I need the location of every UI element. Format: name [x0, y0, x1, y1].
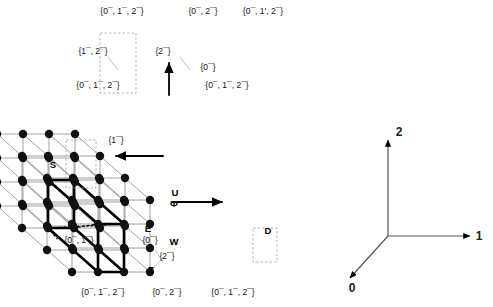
lattice-node [120, 244, 128, 252]
lattice-node [96, 152, 104, 160]
vertex-label-lower-w: {2¯} [159, 251, 174, 261]
lattice-node [45, 130, 53, 138]
lattice-node [43, 222, 51, 230]
marker-phi: Φ [170, 198, 178, 209]
lattice-node [43, 246, 51, 254]
axis-label-2: 2 [396, 125, 403, 139]
lattice-node [68, 244, 76, 252]
lattice-node [71, 130, 79, 138]
vertex-label-inner-one: {1¯} [108, 135, 123, 145]
lattice-node [94, 220, 102, 228]
vertex-label-top-mid: {0¯, 2¯} [188, 6, 217, 16]
lattice-node [18, 200, 26, 208]
vertex-label-lower-e: {0¯} [142, 235, 157, 245]
lattice-node [69, 174, 77, 182]
vertex-label-upper-right-in: {0¯} [200, 62, 215, 72]
lattice-node [95, 174, 103, 182]
lattice-node [68, 196, 76, 204]
lattice-node [94, 268, 102, 276]
lattice-node [43, 174, 51, 182]
lattice-svg: 210 {0¯, 1¯, 2¯}{0¯, 2¯}{0¯, 1', 2¯}{1¯,… [0, 0, 493, 307]
axis-label-0: 0 [349, 281, 356, 295]
vertex-label-upper-mid-in: {2¯} [155, 46, 170, 56]
marker-w: W [170, 236, 179, 247]
lattice-node [120, 220, 128, 228]
lattice-node [18, 224, 26, 232]
lattice-node [18, 176, 26, 184]
vertex-label-bottom-left: {0¯, 1¯, 2¯} [81, 287, 125, 297]
lattice-node [43, 198, 51, 206]
vertex-label-upper-left-in: {1¯, 2¯} [78, 46, 107, 56]
marker-d: D [265, 225, 272, 236]
vertex-label-top-right: {0¯, 1', 2¯} [243, 6, 283, 16]
vertex-label-bottom-right: {0¯, 1¯, 2¯} [211, 287, 255, 297]
vertex-label-mid-left: {0¯, 1¯, 2¯} [76, 80, 120, 90]
vertex-label-bottom-mid: {0¯, 2¯} [152, 287, 181, 297]
axis-label-1: 1 [476, 229, 483, 243]
lattice-node [70, 152, 78, 160]
lattice-node [18, 152, 26, 160]
lattice-node [146, 196, 154, 204]
lattice-node [68, 220, 76, 228]
vertex-label-mid-right: {0¯, 1¯, 2¯} [205, 80, 249, 90]
lattice-node [120, 268, 128, 276]
lattice-node [121, 174, 129, 182]
marker-e: E [145, 223, 151, 234]
vertex-label-lower-left: {0¯, 1¯} [64, 235, 93, 245]
lattice-node [146, 244, 154, 252]
lattice-node [19, 130, 27, 138]
vertex-label-top-left: {0¯, 1¯, 2¯} [100, 6, 144, 16]
marker-s: S [50, 159, 56, 170]
lattice-diagram: 210 {0¯, 1¯, 2¯}{0¯, 2¯}{0¯, 1', 2¯}{1¯,… [0, 0, 493, 307]
marker-z: Z [148, 264, 154, 275]
lattice-node [94, 196, 102, 204]
lattice-node [120, 196, 128, 204]
marker-u: U [172, 187, 179, 198]
lattice-node [94, 244, 102, 252]
lattice-node [68, 268, 76, 276]
